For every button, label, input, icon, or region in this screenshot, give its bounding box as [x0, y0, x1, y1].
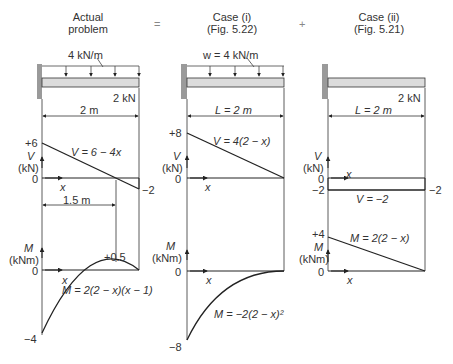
- shear-equation: V = −2: [356, 193, 388, 205]
- beam: [328, 78, 425, 87]
- v-axis-label: V: [314, 150, 321, 162]
- header-case-ii-line1: Case (ii): [346, 11, 412, 23]
- v-max-label: +8: [169, 127, 182, 139]
- m-min-label: −4: [24, 333, 37, 345]
- m-axis-label: M: [24, 242, 33, 254]
- x-axis-label: x: [206, 274, 212, 286]
- wall-support: [322, 64, 328, 99]
- v-end-label: −2: [142, 184, 155, 196]
- span-label: L = 2 m: [215, 104, 252, 116]
- point-load-label: 2 kN: [398, 92, 421, 104]
- header-case-ii-line2: (Fig. 5.21): [346, 23, 412, 35]
- v-left-label: −2: [312, 184, 325, 196]
- v-zero-label: 0: [175, 173, 181, 185]
- m-axis-label: M: [314, 241, 323, 253]
- m-axis-unit: (kNm): [299, 253, 329, 265]
- x-axis-label: x: [347, 274, 353, 286]
- m-axis-label: M: [166, 240, 175, 252]
- plus-sign: +: [299, 18, 305, 30]
- v-max-label: +6: [25, 137, 38, 149]
- x-axis-label: x: [60, 181, 66, 193]
- panel-case-i: [181, 58, 284, 340]
- span-label: 2 m: [80, 104, 98, 116]
- shear-equation: V = 6 − 4x: [71, 146, 121, 158]
- x-axis-label: x: [346, 168, 352, 180]
- header-actual-line1: Actual: [58, 11, 118, 23]
- x-axis-label: x: [205, 181, 211, 193]
- m-axis-unit: (kNm): [152, 252, 182, 264]
- beam: [187, 78, 284, 87]
- v-zero-label: 0: [32, 173, 38, 185]
- dim-1-5m-label: 1.5 m: [63, 194, 91, 206]
- equals-sign: =: [154, 18, 160, 30]
- v-end-label: −2: [429, 184, 442, 196]
- m-zero-label: 0: [318, 266, 324, 278]
- m-peak-label: +0.5: [104, 251, 126, 263]
- header-case-i-line2: (Fig. 5.22): [199, 23, 265, 35]
- m-max-label: +4: [312, 228, 325, 240]
- v-axis-label: V: [173, 150, 180, 162]
- point-load-label: 2 kN: [113, 92, 136, 104]
- moment-equation: M = 2(2 − x): [350, 232, 409, 244]
- v-axis-label: V: [27, 150, 34, 162]
- beam: [42, 78, 139, 87]
- load-label: 4 kN/m: [68, 49, 103, 61]
- span-label: L = 2 m: [355, 104, 392, 116]
- m-zero-label: 0: [175, 266, 181, 278]
- moment-equation: M = 2(2 − x)(x − 1): [62, 284, 153, 296]
- shear-equation: V = 4(2 − x): [213, 135, 270, 147]
- wall-support: [181, 64, 187, 99]
- moment-equation: M = −2(2 − x)²: [214, 308, 283, 320]
- header-case-i-line1: Case (i): [199, 11, 265, 23]
- load-label: w = 4 kN/m: [203, 49, 258, 61]
- wall-support: [37, 64, 42, 99]
- m-zero-label: 0: [32, 265, 38, 277]
- header-actual-line2: problem: [58, 23, 118, 35]
- m-min-label: −8: [169, 341, 182, 353]
